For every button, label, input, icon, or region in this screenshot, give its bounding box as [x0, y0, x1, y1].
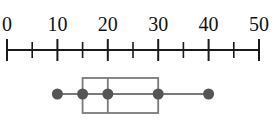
tick-label: 10: [47, 13, 67, 35]
tick-label: 40: [199, 13, 219, 35]
q1-point: [77, 89, 88, 100]
min-point: [52, 89, 63, 100]
tick-label: 20: [98, 13, 118, 35]
max-point: [203, 89, 214, 100]
tick-label: 0: [2, 13, 12, 35]
q3-point: [153, 89, 164, 100]
number-line-axis: [7, 39, 259, 61]
box-and-whisker: [52, 78, 214, 113]
iqr-box: [83, 78, 159, 113]
tick-label: 50: [249, 13, 269, 35]
median-point: [102, 89, 113, 100]
tick-label: 30: [148, 13, 168, 35]
axis-tick-labels: 01020304050: [2, 13, 269, 35]
box-plot-chart: 01020304050: [0, 0, 274, 127]
